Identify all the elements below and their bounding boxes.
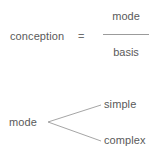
tree-block: mode simple complex — [0, 90, 162, 162]
fraction-denominator: basis — [101, 46, 151, 58]
tree-edge-to-complex — [48, 122, 101, 141]
fraction-bar — [103, 34, 149, 35]
tree-child-node-complex: complex — [104, 134, 146, 146]
fraction: mode basis — [101, 6, 151, 62]
equation-block: conception = mode basis — [0, 0, 162, 66]
tree-child-node-simple: simple — [104, 98, 136, 110]
fraction-numerator: mode — [101, 10, 151, 22]
tree-edge-to-simple — [48, 105, 101, 122]
figure-canvas: conception = mode basis mode simple comp… — [0, 0, 162, 162]
equation-left-term: conception — [10, 30, 64, 42]
equals-sign: = — [78, 30, 85, 42]
tree-root-node: mode — [9, 116, 37, 128]
